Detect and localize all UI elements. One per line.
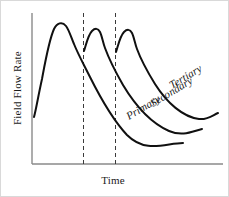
x-axis-label: Time — [101, 174, 125, 186]
axis-labels-group: Field Flow Rate Time — [11, 51, 125, 186]
tertiary-curve — [116, 30, 218, 119]
y-axis-label: Field Flow Rate — [11, 51, 23, 125]
field-flow-rate-decline-chart: Primary Secondary Tertiary Field Flow Ra… — [0, 0, 229, 197]
axes-group — [32, 13, 223, 164]
curve-labels-group: Primary Secondary Tertiary — [123, 62, 204, 122]
plot-area: Primary Secondary Tertiary Field Flow Ra… — [1, 1, 229, 197]
